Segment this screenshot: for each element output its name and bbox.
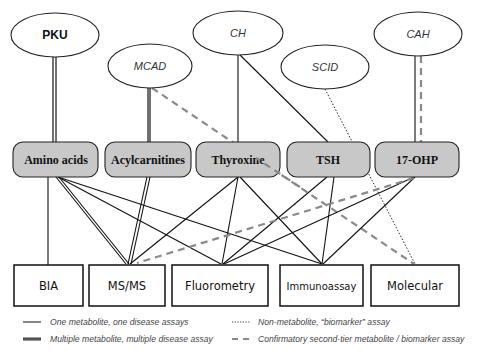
disease-label-scid: SCID [312, 61, 338, 73]
connector-17ohp-msms-confirmatory [137, 178, 414, 263]
connector-17ohp-immunoassay [323, 177, 415, 264]
connector-pku-amino-acids [53, 57, 56, 142]
disease-node-cah: CAH [374, 12, 462, 56]
legend: One metabolite, one disease assays Multi… [23, 317, 465, 344]
analyte-node-17-ohp: 17-OHP [375, 142, 459, 177]
disease-node-scid: SCID [281, 45, 369, 89]
connector-amino-immunoassay [58, 177, 322, 264]
method-nodes: BIA MS/MS Fluorometry Immunoassay Molecu… [14, 265, 459, 306]
method-label-immunoassay: Immunoassay [287, 281, 357, 292]
analyte-nodes: Amino acids Acylcarnitines Thyroxine TSH… [13, 142, 459, 177]
method-node-immunoassay: Immunoassay [280, 265, 363, 306]
connector-tsh-immunoassay [322, 177, 334, 264]
legend-item-multiple: Multiple metabolite, multiple disease as… [23, 334, 214, 344]
disease-node-pku: PKU [11, 13, 99, 57]
disease-label-ch: CH [230, 27, 246, 39]
disease-node-mcad: MCAD [108, 44, 192, 88]
newborn-screening-diagram: PKU MCAD CH SCID CAH Amino acids Acylcar… [0, 0, 481, 351]
legend-item-single: One metabolite, one disease assays [23, 317, 189, 327]
legend-item-biomarker: Non-metabolite, “biomarker” assay [232, 317, 391, 327]
disease-label-cah: CAH [406, 28, 429, 40]
legend-label-confirmatory: Confirmatory second-tier metabolite / bi… [258, 334, 465, 344]
connector-thyroxine-fluorometry [222, 177, 238, 264]
legend-label-single: One metabolite, one disease assays [50, 317, 189, 327]
method-node-molecular: Molecular [371, 265, 459, 306]
method-label-ms-ms: MS/MS [108, 279, 146, 293]
analyte-node-acylcarnitines: Acylcarnitines [105, 142, 191, 177]
disease-node-ch: CH [193, 11, 283, 55]
connector-amino-msms [56, 177, 129, 264]
connector-amino-fluorometry [58, 177, 221, 264]
method-node-bia: BIA [14, 265, 83, 306]
analyte-label-amino-acids: Amino acids [24, 153, 88, 167]
method-label-bia: BIA [39, 279, 58, 293]
method-label-fluorometry: Fluorometry [185, 279, 255, 293]
legend-label-biomarker: Non-metabolite, “biomarker” assay [258, 317, 391, 327]
disease-label-mcad: MCAD [134, 60, 166, 72]
method-node-fluorometry: Fluorometry [172, 265, 268, 306]
connector-mcad-molecular-confirmatory [152, 88, 414, 264]
connector-mcad-acylcarnitines [148, 88, 150, 142]
disease-nodes: PKU MCAD CH SCID CAH [11, 11, 462, 89]
analyte-node-amino-acids: Amino acids [13, 142, 98, 177]
analyte-label-17-ohp: 17-OHP [396, 153, 438, 167]
analyte-node-tsh: TSH [287, 142, 370, 177]
analyte-label-tsh: TSH [316, 153, 341, 167]
connector-thyroxine-msms [130, 177, 238, 264]
disease-label-pku: PKU [42, 28, 67, 42]
analyte-node-thyroxine: Thyroxine [196, 142, 280, 177]
analyte-label-acylcarnitines: Acylcarnitines [111, 153, 185, 167]
method-node-ms-ms: MS/MS [89, 265, 165, 306]
legend-item-confirmatory: Confirmatory second-tier metabolite / bi… [232, 334, 465, 344]
method-label-molecular: Molecular [387, 279, 443, 293]
legend-label-multiple: Multiple metabolite, multiple disease as… [50, 334, 214, 344]
